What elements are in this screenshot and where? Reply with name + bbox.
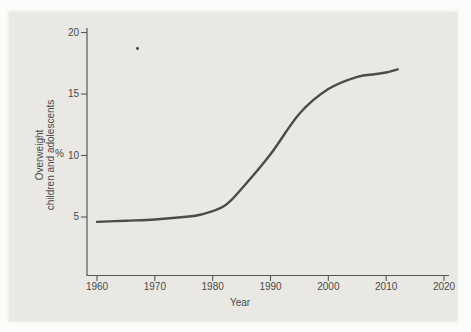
y-axis-ticks bbox=[81, 33, 87, 218]
y-axis-title-line1: Overweight bbox=[34, 130, 45, 181]
y-tick-label: 5 bbox=[59, 211, 79, 223]
axis-lines bbox=[87, 28, 449, 276]
x-tick-label: 2000 bbox=[310, 281, 346, 293]
x-tick-label: 2010 bbox=[368, 281, 404, 293]
x-tick-label: 2020 bbox=[426, 281, 462, 293]
x-axis-title: Year bbox=[218, 297, 262, 309]
y-tick-label: 15 bbox=[59, 88, 79, 100]
y-axis-title: Overweight children and adolescents bbox=[34, 45, 56, 265]
y-tick-label: 20 bbox=[59, 27, 79, 39]
x-tick-label: 1960 bbox=[79, 281, 115, 293]
x-tick-label: 1990 bbox=[253, 281, 289, 293]
x-tick-label: 1980 bbox=[195, 281, 231, 293]
data-curve bbox=[97, 69, 398, 222]
stray-dot-artifact bbox=[136, 47, 139, 50]
y-tick-label: 10 bbox=[59, 150, 79, 162]
x-tick-label: 1970 bbox=[137, 281, 173, 293]
